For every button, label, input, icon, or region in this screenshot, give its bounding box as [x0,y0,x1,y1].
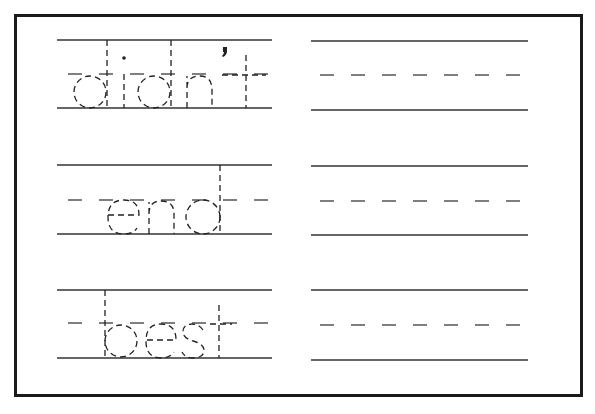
writing-lines [0,0,595,414]
practice-row-1[interactable] [311,41,528,110]
practice-row-2[interactable] [311,166,528,235]
practice-row-3[interactable] [311,290,528,360]
trace-row-1 [57,40,272,108]
trace-row-3 [57,290,272,358]
trace-row-2 [57,165,272,234]
worksheet: didn't end best [0,0,595,414]
